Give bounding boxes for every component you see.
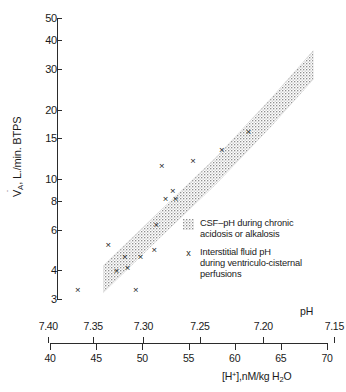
legend-csf-line2: acidosis or alkalosis [200,229,343,240]
x-tick-label-h-45: 45 [81,352,111,364]
y-axis-title: V̇A, L./min. BTPS [11,97,25,217]
x-tick-label-h-50: 50 [127,352,157,364]
y-tick-label-3: 3 [31,294,57,304]
legend-csf-line1: CSF–pH during chronic [200,218,343,229]
y-tick-label-6: 6 [31,225,57,235]
x-tick-label-h-65: 65 [266,352,296,364]
data-point-x: × [189,156,198,165]
x-tick-label-ph-7.30: 7.30 [123,320,163,332]
x-tick-h-40 [50,344,51,350]
y-tick-label-8: 8 [31,196,57,206]
legend-label-csf-ph: CSF–pH during chronic acidosis or alkalo… [200,218,343,240]
x-tick-label-ph-7.25: 7.25 [180,320,220,332]
h-title-prefix: [H [222,370,232,382]
x-tick-h-70 [327,344,328,350]
y-tick-label-30: 30 [31,64,57,74]
x-tick-label-h-70: 70 [312,352,342,364]
data-point-x: × [244,127,253,136]
data-point-x: × [157,161,166,170]
x-tick-label-ph-7.40: 7.40 [28,320,68,332]
legend-int-line3: perfusions [200,269,343,280]
x-tick-label-h-40: 40 [35,352,65,364]
data-point-x: × [171,194,180,203]
x-tick-ph-7.30 [143,337,144,343]
y-tick-3 [57,299,62,300]
y-axis-title-v: V [11,190,23,197]
data-point-x: × [150,245,159,254]
h-title-suffix: O [283,370,291,382]
legend-item-interstitial: x Interstitial fluid pH during ventricul… [183,247,343,280]
x-tick-h-45 [96,344,97,350]
x-axis-top-title: pH [300,305,313,317]
y-axis-title-sub: A [16,185,25,190]
x-tick-h-65 [281,344,282,350]
x-tick-h-55 [189,344,190,350]
legend-int-line2: during ventriculo‑cisternal [200,258,343,269]
x-tick-ph-7.20 [263,337,264,343]
y-axis-title-rest: , L./min. BTPS [11,117,23,185]
x-tick-ph-7.15 [334,337,335,343]
x-tick-label-h-60: 60 [220,352,250,364]
x-tick-label-ph-7.35: 7.35 [73,320,113,332]
x-marker-icon: x [183,248,194,259]
y-tick-label-10: 10 [31,174,57,184]
x-tick-ph-7.25 [200,337,201,343]
x-tick-ph-7.35 [93,337,94,343]
x-tick-h-50 [142,344,143,350]
data-point-x: × [123,263,132,272]
y-tick-label-40: 40 [31,35,57,45]
legend-int-line1: Interstitial fluid pH [200,247,343,258]
x-tick-ph-7.40 [48,337,49,343]
legend-label-interstitial: Interstitial fluid pH during ventriculo‑… [200,247,343,280]
chart-legend: CSF–pH during chronic acidosis or alkalo… [183,218,343,287]
h-title-mid: ],nM/kg H [236,370,279,382]
x-tick-label-ph-7.15: 7.15 [314,320,346,332]
data-point-x: × [120,252,129,261]
y-tick-label-50: 50 [31,13,57,23]
x-tick-label-ph-7.20: 7.20 [243,320,283,332]
y-tick-label-20: 20 [31,105,57,115]
data-point-x: × [131,285,140,294]
x-axis-bottom-title: [H+],nM/kg H2O [222,370,291,384]
x-tick-label-h-55: 55 [174,352,204,364]
data-point-x: × [217,145,226,154]
data-point-x: × [104,240,113,249]
y-tick-label-15: 15 [31,133,57,143]
data-point-x: × [73,285,82,294]
data-point-x: × [136,252,145,261]
data-point-x: × [112,266,121,275]
data-point-x: × [152,220,161,229]
band-swatch-icon [183,219,194,230]
y-tick-label-4: 4 [31,265,57,275]
legend-item-csf-ph: CSF–pH during chronic acidosis or alkalo… [183,218,343,240]
ventilation-vs-ph-chart: 3468101520304050 404550556065707.407.357… [0,0,346,392]
x-tick-h-60 [235,344,236,350]
data-point-x: × [161,194,170,203]
